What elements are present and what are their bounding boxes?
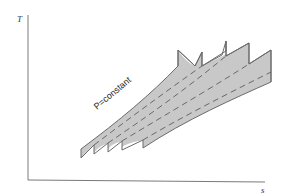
x-axis <box>28 180 265 182</box>
pressure-annotation: P=constant <box>92 74 133 111</box>
t-s-diagram: T s P=constant <box>0 0 289 195</box>
y-axis-label: T <box>17 14 23 24</box>
x-axis-label: s <box>261 185 265 195</box>
